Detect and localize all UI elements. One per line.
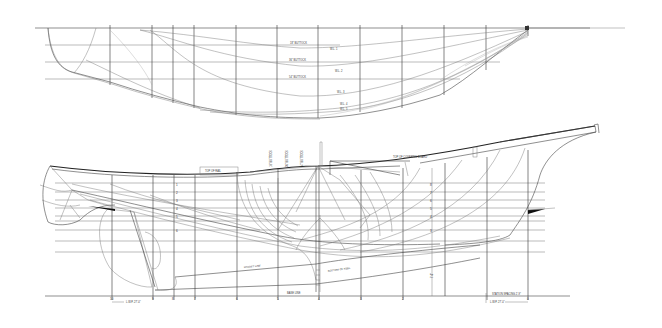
label-wl2: W.L. 2 (335, 69, 343, 73)
waterline-3-curve (150, 30, 528, 96)
label-54-buttock-profile: 54" BUTTOCK (300, 150, 304, 167)
svg-text:10: 10 (110, 297, 114, 301)
svg-text:0: 0 (527, 297, 529, 301)
svg-text:5: 5 (277, 297, 279, 301)
station-ticks: 10 9 8 7 6 5 4 3 2 0 (110, 297, 529, 301)
svg-text:6: 6 (176, 229, 178, 233)
svg-text:4: 4 (176, 207, 178, 211)
svg-text:6: 6 (236, 297, 238, 301)
label-top-of-rail: TOP OF RAIL (205, 169, 222, 173)
half-breadth-plan: 18" BUTTOCK 36" BUTTOCK 54" BUTTOCK W.L.… (35, 25, 625, 119)
svg-text:5: 5 (430, 207, 432, 211)
waterline-grid (55, 183, 545, 252)
label-wl1: W.L. 1 (330, 47, 338, 51)
svg-text:1: 1 (176, 183, 178, 187)
svg-text:8: 8 (430, 183, 432, 187)
label-wl3: W.L. 3 (337, 90, 345, 94)
deck-outline (48, 28, 528, 118)
svg-text:3: 3 (430, 229, 432, 233)
profile-plan: TOP OF RAIL TOP OF COVERING BOARD RABBET… (40, 124, 599, 304)
label-base-line: BASE LINE (287, 291, 301, 295)
svg-text:3: 3 (360, 297, 362, 301)
label-wl4: W.L. 4 (340, 102, 348, 106)
svg-text:2: 2 (176, 191, 178, 195)
svg-text:3: 3 (176, 199, 178, 203)
label-lwl-fwd: L.W.P. 27'-0" (490, 300, 505, 304)
label-top-of-covering-board: TOP OF COVERING BOARD (393, 155, 427, 159)
label-18-buttock-top: 18" BUTTOCK (290, 41, 307, 45)
label-36-buttock-profile: 36" BUTTOCK (285, 150, 289, 167)
label-wl5: W.L. 5 (340, 107, 348, 111)
lines-plan-drawing: 18" BUTTOCK 36" BUTTOCK 54" BUTTOCK W.L.… (0, 0, 662, 328)
svg-text:4: 4 (318, 297, 320, 301)
label-height-dim: 7'-0" (430, 273, 434, 278)
station-lines-top (110, 25, 528, 118)
label-54-buttock-top: 54" BUTTOCK (289, 75, 306, 79)
bowsprit (420, 126, 596, 163)
svg-text:7: 7 (194, 297, 196, 301)
sheer-line (50, 126, 595, 174)
label-36-buttock-top: 36" BUTTOCK (289, 58, 306, 62)
svg-text:6: 6 (430, 199, 432, 203)
label-lwl-aft: L.W.P. 27'-0" (126, 300, 141, 304)
label-bottom-of-keel: BOTTOM OF KEEL (328, 266, 352, 273)
body-plan-section (237, 173, 316, 280)
svg-text:4: 4 (430, 215, 432, 219)
label-station-spacing: STATION SPACING 2'-9" (492, 292, 521, 296)
rudder (100, 209, 152, 287)
waterline-4-curve (200, 32, 528, 112)
svg-text:9: 9 (152, 297, 154, 301)
label-rabbet-line: RABBET LINE (244, 264, 261, 269)
label-18-buttock-profile: 18" BUTTOCK (269, 150, 273, 167)
stem-profile (445, 132, 596, 245)
svg-text:2: 2 (402, 297, 404, 301)
